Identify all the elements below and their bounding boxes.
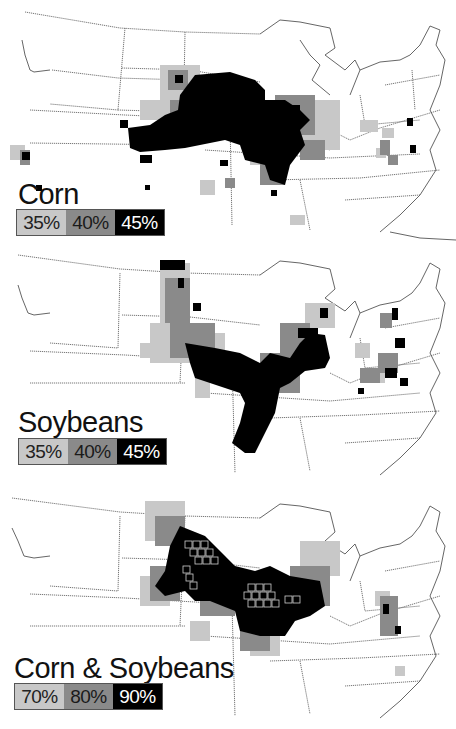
legend-swatch-high: 90% — [113, 684, 162, 709]
panel-title-soybeans: Soybeans — [18, 408, 143, 437]
legend-corn: 35% 40% 45% — [16, 209, 165, 236]
map-panel-corn-soybeans: Corn & Soybeans 70% 80% 90% — [0, 486, 456, 729]
legend-swatch-mid: 80% — [64, 684, 113, 709]
panel-title-corn-soybeans: Corn & Soybeans — [14, 654, 234, 683]
map-panel-corn: Corn 35% 40% 45% — [0, 0, 456, 243]
legend-corn-soybeans: 70% 80% 90% — [14, 683, 163, 710]
legend-swatch-low: 35% — [19, 439, 68, 464]
legend-swatch-low: 35% — [17, 210, 66, 235]
map-panel-soybeans: Soybeans 35% 40% 45% — [0, 243, 456, 486]
legend-soybeans: 35% 40% 45% — [18, 438, 167, 465]
legend-swatch-mid: 40% — [68, 439, 117, 464]
panel-title-corn: Corn — [18, 180, 79, 209]
legend-swatch-high: 45% — [115, 210, 164, 235]
legend-swatch-high: 45% — [117, 439, 166, 464]
legend-swatch-mid: 40% — [66, 210, 115, 235]
legend-swatch-low: 70% — [15, 684, 64, 709]
